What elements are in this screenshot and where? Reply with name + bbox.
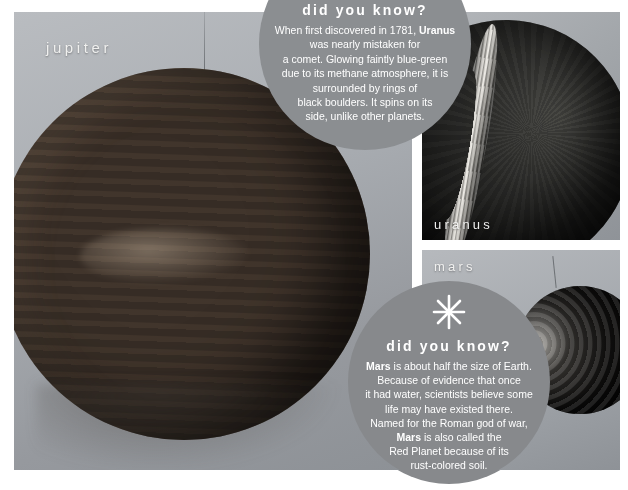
- mars-hanging-string: [552, 256, 556, 288]
- fact-bubble-mars-overhang: [348, 470, 550, 484]
- jupiter-shadow: [36, 384, 336, 470]
- jupiter-hanging-string: [204, 12, 205, 70]
- fact-line: side, unlike other planets.: [263, 109, 467, 123]
- fact-line: a comet. Glowing faintly blue-green: [263, 52, 467, 66]
- fact-bubble-mars: did you know? Mars is about half the siz…: [348, 281, 550, 483]
- fact-line: life may have existed there.: [358, 402, 540, 416]
- starburst-icon: [426, 292, 472, 332]
- caption-mars: mars: [434, 259, 476, 274]
- fact-line: due to its methane atmosphere, it is: [263, 66, 467, 80]
- fact-line: When first discovered in 1781, Uranus: [263, 23, 467, 37]
- fact-line: Red Planet because of its: [358, 444, 540, 458]
- fact-line: Named for the Roman god of war,: [358, 416, 540, 430]
- fact-line: Mars is about half the size of Earth.: [358, 359, 540, 373]
- caption-jupiter: jupiter: [46, 39, 112, 56]
- fact-line: surrounded by rings of: [263, 81, 467, 95]
- fact-line: Mars is also called the: [358, 430, 540, 444]
- fact-bubble-mars-body: Mars is about half the size of Earth. Be…: [348, 359, 550, 473]
- caption-uranus: uranus: [434, 217, 493, 232]
- fact-line: Because of evidence that once: [358, 373, 540, 387]
- fact-line: black boulders. It spins on its: [263, 95, 467, 109]
- fact-bubble-mars-title: did you know?: [348, 338, 550, 354]
- fact-line: it had water, scientists believe some: [358, 387, 540, 401]
- fact-bubble-uranus-title: did you know?: [259, 2, 471, 18]
- poster-page: jupiter uranus mars did you know? When f…: [0, 0, 628, 490]
- fact-line: was nearly mistaken for: [263, 37, 467, 51]
- fact-bubble-uranus-body: When first discovered in 1781, Uranus wa…: [259, 23, 471, 124]
